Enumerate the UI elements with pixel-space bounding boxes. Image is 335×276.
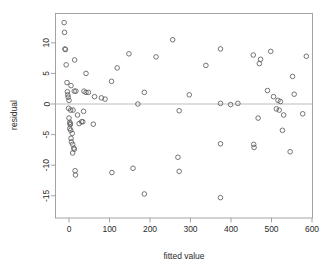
data-point — [65, 80, 70, 85]
y-tick-label: -15 — [42, 189, 52, 202]
data-point — [218, 195, 223, 200]
data-point — [258, 57, 263, 62]
data-point — [271, 94, 276, 99]
scatter-plot-canvas: 0100200300400500600 1050-5-10-15 fitted … — [0, 0, 335, 276]
data-point — [131, 166, 136, 171]
data-point — [72, 58, 77, 63]
data-point — [69, 83, 74, 88]
data-point — [290, 74, 295, 79]
y-tick-label: -10 — [42, 159, 52, 172]
data-point — [109, 79, 114, 84]
data-point — [251, 53, 256, 58]
y-tick-label: 5 — [42, 71, 52, 76]
data-point — [62, 30, 67, 35]
data-point — [110, 170, 115, 175]
x-tick-label: 0 — [67, 224, 72, 234]
data-point — [67, 116, 72, 121]
data-point — [252, 145, 257, 150]
y-tick-label: 0 — [42, 101, 52, 106]
data-point — [274, 107, 279, 112]
data-point — [281, 113, 286, 118]
data-point — [91, 122, 96, 127]
x-tick-label: 200 — [143, 224, 157, 234]
data-point — [187, 93, 192, 98]
data-point — [268, 49, 273, 54]
data-point — [62, 20, 67, 25]
data-point — [92, 94, 97, 99]
plot-border — [56, 14, 313, 219]
y-tick-label: 10 — [42, 38, 52, 48]
data-point — [292, 92, 297, 97]
data-point — [218, 101, 223, 106]
x-tick-label: 400 — [224, 224, 238, 234]
data-point — [176, 155, 181, 160]
data-point — [256, 116, 261, 121]
data-point — [280, 128, 285, 133]
data-point — [218, 47, 223, 52]
data-point — [154, 55, 159, 60]
residual-plot-figure: 0100200300400500600 1050-5-10-15 fitted … — [0, 0, 335, 276]
data-point — [142, 90, 147, 95]
x-axis-tick-labels: 0100200300400500600 — [67, 224, 320, 234]
x-axis-tick-marks — [69, 218, 312, 223]
x-tick-label: 600 — [305, 224, 319, 234]
data-point — [64, 63, 69, 68]
data-point — [67, 98, 72, 103]
data-point — [265, 88, 270, 93]
data-point — [170, 37, 175, 42]
data-point — [177, 169, 182, 174]
x-tick-label: 500 — [264, 224, 278, 234]
data-point — [236, 101, 241, 106]
data-points-layer — [62, 20, 309, 200]
data-point — [81, 109, 86, 114]
data-point — [177, 108, 182, 113]
x-tick-label: 100 — [102, 224, 116, 234]
data-point — [288, 149, 293, 154]
data-point — [115, 66, 120, 71]
data-point — [84, 71, 89, 76]
plot-frame — [56, 14, 313, 219]
y-axis-tick-labels: 1050-5-10-15 — [42, 38, 52, 202]
y-tick-label: -5 — [42, 131, 52, 139]
data-point — [127, 52, 132, 57]
data-point — [277, 108, 282, 113]
data-point — [75, 113, 80, 118]
data-point — [142, 192, 147, 197]
data-point — [304, 54, 309, 59]
x-axis-title: fitted value — [163, 251, 204, 261]
y-axis-tick-marks — [51, 43, 56, 196]
data-point — [300, 111, 305, 116]
data-point — [218, 141, 223, 146]
data-point — [228, 102, 233, 107]
y-axis-title: residual — [9, 100, 19, 130]
data-point — [204, 63, 209, 68]
x-tick-label: 300 — [183, 224, 197, 234]
